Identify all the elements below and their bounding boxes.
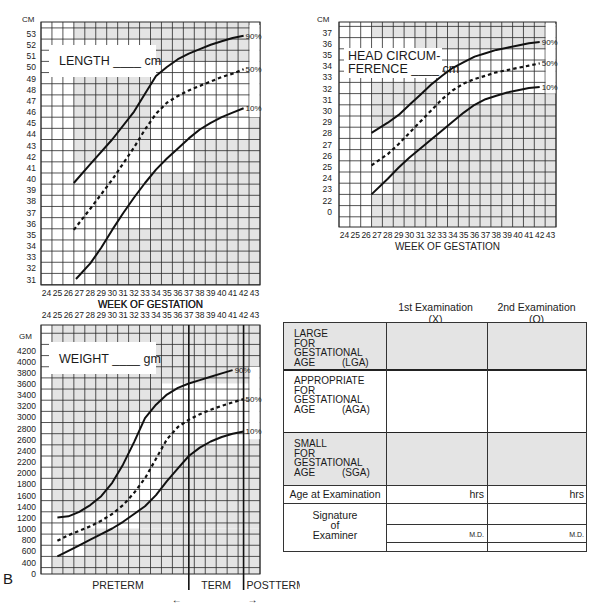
x-tick-label: 42 — [239, 310, 249, 320]
y-tick-label: 33 — [27, 252, 37, 262]
y-tick-label: 44 — [27, 129, 37, 139]
exam-1-cell[interactable] — [386, 433, 487, 485]
x-tick-label: 30 — [107, 288, 117, 298]
x-tick-label: 26 — [361, 230, 371, 240]
y-tick-label: 31 — [27, 275, 37, 285]
chart-title: FERENCE ____ cm — [348, 62, 459, 76]
panel-letter: B — [3, 570, 13, 587]
x-tick-label: 34 — [151, 310, 161, 320]
exam-2-signature-field[interactable]: M.D. — [487, 530, 584, 540]
chart-title: LENGTH ____ cm — [59, 54, 161, 68]
x-tick-label: 31 — [416, 230, 426, 240]
y-tick-label: 38 — [27, 196, 37, 206]
age-at-examination-label: Age at Examination — [284, 489, 386, 499]
exam-1-age-input[interactable]: hrs — [386, 489, 484, 499]
y-tick-label: 24 — [323, 173, 333, 183]
y-tick-label: 37 — [27, 208, 37, 218]
percentile-label: 10% — [246, 104, 262, 113]
y-tick-label: 1400 — [17, 502, 36, 512]
x-tick-label: 39 — [206, 288, 216, 298]
x-tick-label: 36 — [173, 310, 183, 320]
x-tick-label: 36 — [173, 288, 183, 298]
x-tick-label: 32 — [426, 230, 436, 240]
x-tick-label: 33 — [140, 310, 150, 320]
row-abbreviation: (SGA) — [342, 468, 370, 478]
exam-1-signature-field[interactable]: M.D. — [386, 530, 484, 540]
right-arrow-icon: → — [248, 594, 258, 605]
y-tick-label: 4200 — [17, 346, 36, 356]
x-tick-label: 43 — [250, 288, 260, 298]
x-tick-label: 38 — [492, 230, 502, 240]
x-tick-label: 39 — [206, 310, 216, 320]
x-tick-label: 24 — [340, 230, 350, 240]
y-tick-label: 50 — [27, 62, 37, 72]
x-tick-label: 31 — [118, 310, 128, 320]
x-tick-label: 25 — [351, 230, 361, 240]
y-tick-label: 47 — [27, 96, 37, 106]
y-tick-label: 0 — [327, 207, 332, 217]
y-tick-label: 26 — [323, 151, 333, 161]
y-tick-label: 28 — [323, 128, 333, 138]
signature-label-line: Examiner — [284, 530, 386, 540]
x-tick-label: 39 — [502, 230, 512, 240]
x-tick-label: 30 — [107, 310, 117, 320]
x-tick-label: 33 — [437, 230, 447, 240]
y-tick-label: 1800 — [17, 479, 36, 489]
row-label-line: AGE(AGA) — [294, 405, 382, 415]
y-tick-label: 4000 — [17, 357, 36, 367]
y-tick-label: 49 — [27, 74, 37, 84]
percentile-label: 10% — [542, 83, 558, 92]
y-tick-label: 34 — [323, 61, 333, 71]
weight-chart: WEIGHT ____ gm04006008001000120014001600… — [0, 300, 300, 605]
y-tick-label: 22 — [323, 196, 333, 206]
y-tick-label: 29 — [323, 117, 333, 127]
exam-2-cell[interactable] — [487, 370, 586, 433]
y-tick-label: 32 — [323, 84, 333, 94]
head-circumference-chart: HEAD CIRCUM-FERENCE ____ cm0222324252627… — [300, 0, 600, 260]
x-tick-label: 26 — [64, 310, 74, 320]
y-tick-label: 25 — [323, 162, 333, 172]
x-tick-label: 42 — [535, 230, 545, 240]
x-tick-label: 28 — [86, 288, 96, 298]
row-label-sga: SMALLFORGESTATIONALAGE(SGA) — [294, 439, 382, 483]
y-tick-label: 27 — [323, 140, 333, 150]
x-tick-label: 30 — [405, 230, 415, 240]
percentile-label: 50% — [246, 395, 262, 404]
x-tick-label: 27 — [372, 230, 382, 240]
x-tick-label: 27 — [75, 310, 85, 320]
column-divider — [487, 323, 488, 551]
y-tick-label: 48 — [27, 85, 37, 95]
unit-label: CM — [317, 15, 330, 24]
x-tick-label: 37 — [184, 288, 194, 298]
y-tick-label: 36 — [323, 39, 333, 49]
exam-2-age-input[interactable]: hrs — [487, 489, 584, 499]
x-axis-label: WEEK OF GESTATION — [395, 241, 500, 252]
y-tick-label: 2400 — [17, 446, 36, 456]
chart-title: HEAD CIRCUM- — [348, 49, 440, 63]
y-tick-label: 600 — [22, 546, 36, 556]
exam-1-cell[interactable] — [386, 370, 487, 433]
y-tick-label: 2000 — [17, 468, 36, 478]
x-tick-label: 42 — [239, 288, 249, 298]
x-tick-label: 34 — [448, 230, 458, 240]
x-tick-label: 26 — [64, 288, 74, 298]
y-tick-label: 2800 — [17, 424, 36, 434]
x-tick-label: 35 — [162, 288, 172, 298]
x-tick-label: 40 — [217, 310, 227, 320]
row-label-line: AGE(SGA) — [294, 468, 382, 478]
x-tick-label: 43 — [546, 230, 556, 240]
x-tick-label: 24 — [42, 310, 52, 320]
x-tick-label: 25 — [53, 310, 63, 320]
y-tick-label: 45 — [27, 118, 37, 128]
exam-1-cell[interactable] — [386, 323, 487, 370]
exam-2-cell[interactable] — [487, 433, 586, 485]
y-tick-label: 33 — [323, 72, 333, 82]
exam-2-cell[interactable] — [487, 323, 586, 370]
y-tick-label: 3800 — [17, 368, 36, 378]
period-label-postterm: POSTTERM — [247, 579, 300, 591]
row-label-line: AGE(LGA) — [294, 358, 382, 368]
signature-divider — [386, 524, 586, 525]
y-tick-label: 1000 — [17, 524, 36, 534]
y-tick-label: 43 — [27, 141, 37, 151]
y-tick-label: 400 — [22, 558, 36, 568]
